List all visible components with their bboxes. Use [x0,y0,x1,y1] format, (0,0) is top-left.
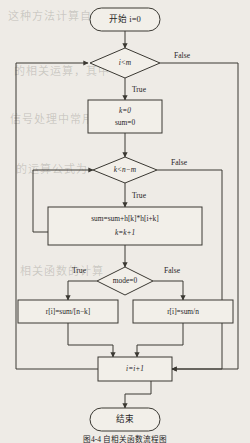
edge-result-left-to-increment [68,323,113,357]
node-decision-k-label: k<n−m [114,165,137,174]
node-start: 开始 i=0 [90,8,160,31]
edge-result-right-to-increment [137,323,183,357]
edge-label-k-false: False [171,158,188,167]
node-accum-box: sum=sum+h[k]*h[i+k] k=k+1 [48,207,202,245]
node-accum-box-line-1: sum=sum+h[k]*h[i+k] [91,214,159,223]
node-decision-k: k<n−m [93,157,157,183]
node-decision-mode: mode=0 [97,267,153,295]
node-accum-box-line-2: k=k+1 [115,228,135,237]
node-result-left-label: r[i]=sum/[n−k] [46,307,90,316]
edge-label-i-true: True [132,85,147,94]
node-start-label: 开始 i=0 [109,13,141,24]
figure-caption: 图4-4 自相关函数流程图 [83,434,167,443]
figure-page: 这种方法计算自相关函数 的相关运算，其中 信号处理中常用 的运算公式为 相关函数… [0,0,250,443]
edge-decision-mode-false [153,281,183,300]
node-end: 结束 [90,408,160,431]
node-decision-i-label: i<m [119,58,132,67]
node-result-right-label: r[i]=sum/n [167,307,199,316]
node-increment-label: i=i+1 [126,364,144,373]
edge-decision-mode-true [68,281,97,300]
edge-label-k-true: True [132,191,147,200]
node-end-label: 结束 [116,413,134,424]
edge-label-mode-true: True [72,266,87,275]
node-init-box-line-1: k=0 [119,106,131,115]
node-result-left: r[i]=sum/[n−k] [18,300,118,323]
edge-label-i-false: False [174,51,191,60]
node-result-right: r[i]=sum/n [133,300,233,323]
node-init-box: k=0 sum=0 [88,100,162,133]
node-decision-i: i<m [90,48,160,78]
node-increment: i=i+1 [98,357,172,381]
edge-label-mode-false: False [164,266,181,275]
flowchart-diagram: 开始 i=0 i<m k=0 sum=0 k<n−m sum=sum+h[k]*… [0,0,250,443]
node-init-box-line-2: sum=0 [115,118,135,127]
node-decision-mode-label: mode=0 [113,276,138,285]
